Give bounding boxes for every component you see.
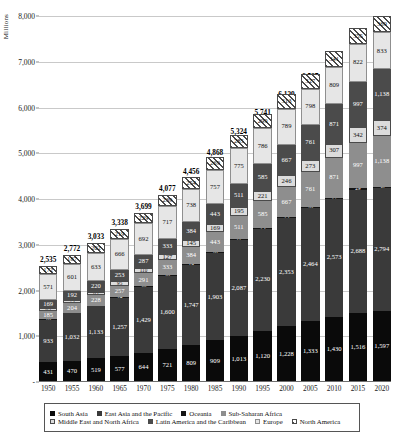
bar-column[interactable]: 4,077239717333127333181,600721: [158, 16, 176, 382]
bar-segment-ssa[interactable]: 333: [158, 260, 176, 275]
bar-segment-lac[interactable]: 333: [158, 239, 176, 254]
bar-segment-na[interactable]: 269: [206, 157, 224, 169]
bar-segment-ssa[interactable]: 511: [230, 216, 248, 239]
legend-item-oce[interactable]: Oceania: [181, 410, 211, 417]
bar-segment-mena[interactable]: 307: [325, 144, 343, 158]
bar-segment-lac[interactable]: 287: [134, 255, 152, 268]
legend-item-south[interactable]: South Asia: [50, 410, 88, 417]
bar-segment-south[interactable]: 909: [206, 340, 224, 382]
bar-segment-na[interactable]: 313: [277, 94, 295, 108]
bar-segment-ssa[interactable]: 443: [206, 232, 224, 252]
bar-segment-south[interactable]: 1,430: [325, 317, 343, 382]
legend-item-mena[interactable]: Middle East and North Africa: [50, 418, 139, 425]
bar-segment-eur[interactable]: 666: [110, 239, 128, 269]
bar-segment-na[interactable]: 254: [182, 177, 200, 189]
bar-column[interactable]: 2,77218760119275204111,032470: [63, 16, 81, 382]
bar-segment-south[interactable]: 1,597: [373, 311, 391, 382]
bar-segment-eur[interactable]: 798: [301, 89, 319, 126]
bar-segment-eap[interactable]: 2,794: [373, 188, 391, 312]
bar-column[interactable]: 7,7893698331,1383741,138302,7941,597: [373, 16, 391, 382]
bar-column[interactable]: 5,741299786585221585232,2301,120: [253, 16, 271, 382]
bar-segment-mena[interactable]: 342: [349, 127, 367, 143]
bar-segment-mena[interactable]: 169: [206, 224, 224, 232]
legend-item-na[interactable]: North America: [292, 418, 341, 425]
bar-segment-eap[interactable]: 2,353: [277, 218, 295, 326]
bar-segment-eap[interactable]: 1,429: [134, 287, 152, 352]
bar-segment-lac[interactable]: 761: [301, 125, 319, 160]
bar-segment-south[interactable]: 1,120: [253, 331, 271, 382]
bar-segment-lac[interactable]: 384: [182, 222, 200, 240]
bar-segment-mena[interactable]: 246: [277, 175, 295, 186]
bar-column[interactable]: 5,324285775511195511222,0871,013: [230, 16, 248, 382]
bar-segment-eap[interactable]: 933: [39, 320, 57, 363]
bar-segment-na[interactable]: 285: [230, 135, 248, 148]
bar-segment-ssa[interactable]: 257: [110, 286, 128, 298]
bar-segment-eap[interactable]: 2,230: [253, 229, 271, 331]
bar-segment-eur[interactable]: 571: [39, 274, 57, 300]
bar-segment-na[interactable]: 341: [325, 51, 343, 67]
bar-segment-south[interactable]: 470: [63, 361, 81, 383]
bar-segment-eap[interactable]: 1,600: [158, 276, 176, 349]
bar-segment-south[interactable]: 431: [39, 362, 57, 382]
bar-segment-na[interactable]: 202: [87, 243, 105, 252]
bar-segment-south[interactable]: 809: [182, 345, 200, 382]
bar-segment-lac[interactable]: 511: [230, 184, 248, 207]
bar-column[interactable]: 2,5351725711696518510933431: [39, 16, 57, 382]
bar-segment-ssa[interactable]: 228: [87, 295, 105, 305]
bar-segment-mena[interactable]: 374: [373, 120, 391, 137]
bar-segment-lac[interactable]: 997: [349, 82, 367, 128]
bar-column[interactable]: 3,33821966625395257141,257577: [110, 16, 128, 382]
bar-segment-mena[interactable]: 195: [230, 207, 248, 216]
bar-segment-eur[interactable]: 601: [63, 264, 81, 291]
bar-segment-eur[interactable]: 809: [325, 67, 343, 104]
bar-segment-lac[interactable]: 667: [277, 145, 295, 176]
bar-segment-na[interactable]: 229: [134, 213, 152, 223]
bar-segment-na[interactable]: 299: [253, 114, 271, 128]
bar-segment-ssa[interactable]: 204: [63, 303, 81, 312]
bar-segment-eur[interactable]: 692: [134, 223, 152, 255]
bar-segment-lac[interactable]: 169: [39, 300, 57, 308]
bar-segment-ssa[interactable]: 761: [301, 172, 319, 207]
bar-segment-ssa[interactable]: 871: [325, 158, 343, 198]
bar-segment-eap[interactable]: 1,133: [87, 306, 105, 358]
bar-segment-lac[interactable]: 192: [63, 291, 81, 300]
bar-segment-eap[interactable]: 2,087: [230, 240, 248, 335]
bar-column[interactable]: 3,03320263322085228131,133519: [87, 16, 105, 382]
bar-segment-south[interactable]: 644: [134, 353, 152, 382]
bar-segment-ssa[interactable]: 997: [349, 143, 367, 189]
bar-segment-na[interactable]: 327: [301, 74, 319, 89]
bar-segment-lac[interactable]: 585: [253, 164, 271, 191]
bar-column[interactable]: 4,868269757443169443201,903909: [206, 16, 224, 382]
bar-segment-eur[interactable]: 789: [277, 109, 295, 145]
bar-segment-na[interactable]: 172: [39, 266, 57, 274]
bar-segment-eap[interactable]: 2,573: [325, 199, 343, 317]
bar-segment-eur[interactable]: 738: [182, 189, 200, 223]
bar-segment-eur[interactable]: 786: [253, 128, 271, 164]
bar-segment-south[interactable]: 1,333: [301, 321, 319, 382]
bar-segment-ssa[interactable]: 185: [39, 311, 57, 319]
bar-segment-south[interactable]: 721: [158, 349, 176, 382]
bar-segment-south[interactable]: 577: [110, 356, 128, 382]
bar-segment-lac[interactable]: 253: [110, 270, 128, 282]
bar-segment-eap[interactable]: 1,257: [110, 298, 128, 356]
bar-segment-ssa[interactable]: 585: [253, 201, 271, 228]
bar-segment-eap[interactable]: 2,688: [349, 190, 367, 313]
bar-column[interactable]: 4,456254738384145384191,747809: [182, 16, 200, 382]
bar-segment-mena[interactable]: 273: [301, 160, 319, 172]
legend-item-eap[interactable]: East Asia and the Pacific: [97, 410, 173, 417]
bar-segment-eap[interactable]: 2,464: [301, 208, 319, 321]
bar-segment-south[interactable]: 1,228: [277, 326, 295, 382]
bar-segment-lac[interactable]: 1,138: [373, 69, 391, 119]
bar-segment-ssa[interactable]: 667: [277, 187, 295, 218]
bar-column[interactable]: 6,537327798761273761262,4641,333: [301, 16, 319, 382]
bar-segment-lac[interactable]: 220: [87, 281, 105, 291]
bar-segment-eap[interactable]: 1,747: [182, 265, 200, 345]
bar-column[interactable]: 3,699229692287110291161,429644: [134, 16, 152, 382]
bar-segment-ssa[interactable]: 1,138: [373, 136, 391, 186]
legend-item-ssa[interactable]: Sub-Saharan Africa: [221, 410, 282, 417]
bar-segment-south[interactable]: 1,516: [349, 313, 367, 382]
bar-segment-na[interactable]: 355: [349, 28, 367, 44]
bar-segment-eap[interactable]: 1,903: [206, 253, 224, 340]
bar-segment-south[interactable]: 519: [87, 358, 105, 382]
bar-segment-lac[interactable]: 443: [206, 204, 224, 224]
